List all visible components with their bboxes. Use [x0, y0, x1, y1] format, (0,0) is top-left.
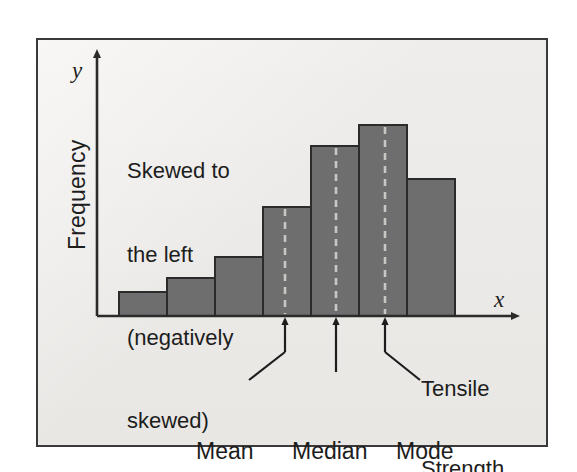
mean-label-name: Mean	[196, 437, 254, 465]
mode-label-name: Mode	[396, 437, 454, 465]
skewness-annotation-line-3: (negatively	[127, 324, 233, 352]
skewness-annotation-line-2: the left	[127, 241, 233, 269]
x-axis-letter: x	[494, 286, 504, 313]
mode-leader-line	[385, 352, 420, 380]
marker-leader-lines	[249, 352, 420, 380]
y-axis-title: Frequency	[64, 140, 91, 250]
median-label-name: Median	[292, 437, 367, 465]
marker-pointer-arrows	[285, 324, 385, 372]
mean-label-group: Mean 2,600	[196, 381, 254, 472]
mean-leader-line	[249, 352, 285, 380]
mode-label-group: Mode 3,000	[396, 381, 454, 472]
histogram-bar	[359, 125, 407, 316]
median-label-group: Median 2,800	[292, 381, 367, 472]
histogram-bar	[263, 207, 311, 316]
y-axis-letter: y	[72, 57, 82, 84]
figure-root: y x Frequency Skewed to the left (negati…	[0, 0, 577, 472]
histogram-bar	[407, 179, 455, 316]
skewness-annotation-line-1: Skewed to	[127, 157, 233, 185]
